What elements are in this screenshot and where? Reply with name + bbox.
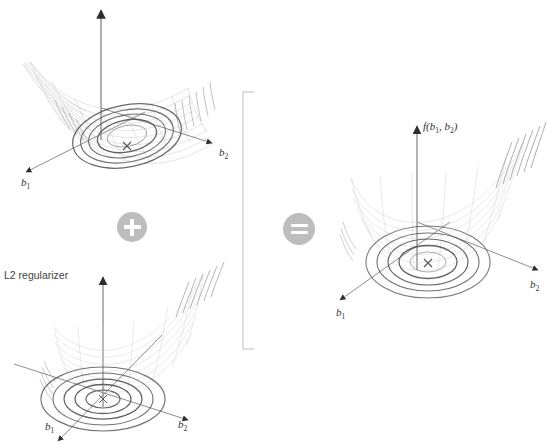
axis-label-b2-loss: b2 <box>219 146 228 161</box>
plus-operator <box>117 212 147 242</box>
group-bracket <box>240 90 260 352</box>
plot-l2-regularizer <box>10 255 260 447</box>
minimum-marker-sum <box>424 259 432 267</box>
surface-comb-sum-left <box>340 222 356 261</box>
equals-top-bar <box>291 224 308 227</box>
plus-vertical-bar <box>130 219 133 236</box>
surface-wing-left <box>23 62 86 122</box>
axis-label-b1-l2: b1 <box>45 420 54 435</box>
surface-mesh-loss <box>30 62 215 163</box>
axis-label-z-sum: f(b1, b2) <box>423 120 457 135</box>
surface-comb-sum-right <box>496 122 546 188</box>
axis-label-b1-loss: b1 <box>21 176 30 191</box>
equals-bottom-bar <box>291 231 308 234</box>
axis-label-b2-sum: b2 <box>530 278 539 293</box>
surface-mesh-sum <box>351 142 524 271</box>
axis-label-b1-sum: b1 <box>336 306 345 321</box>
axis-b2-l2 <box>14 364 188 420</box>
contours-sum <box>366 226 490 298</box>
axis-label-b2-l2: b2 <box>178 418 187 433</box>
figure-canvas: b1 b2 L2 regularizer <box>0 0 548 447</box>
plot-loss-surface <box>0 0 250 210</box>
plot-regularized-objective <box>310 110 548 340</box>
